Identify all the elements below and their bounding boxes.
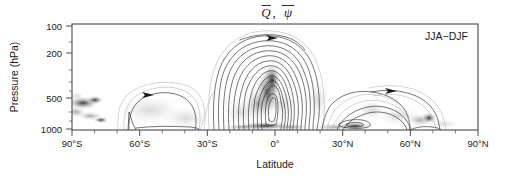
season-difference-annotation: JJA−DJF: [425, 30, 468, 42]
x-tick-label-30s: 30°S: [197, 138, 218, 149]
x-tick-label-30n: 30°N: [332, 138, 353, 149]
shading-blob: [93, 117, 109, 124]
shading-blob: [269, 88, 297, 120]
shading-blob: [69, 91, 85, 101]
plot-title: Q , ψ: [261, 5, 294, 20]
y-tick-label-100: 100: [46, 21, 62, 32]
shading-blob: [221, 124, 265, 131]
contour-plot: 100 200 500 1000 Pressure (hPa): [0, 0, 509, 176]
shading-blob: [86, 96, 104, 105]
figure-container: 100 200 500 1000 Pressure (hPa): [0, 0, 509, 176]
title-symbol-psi: ψ: [284, 5, 293, 20]
x-tick-label-90n: 90°N: [467, 138, 488, 149]
title-symbol-q: Q: [261, 5, 271, 20]
title-comma: ,: [272, 5, 275, 20]
x-axis-label: Latitude: [256, 158, 294, 170]
x-tick-label-60s: 60°S: [129, 138, 150, 149]
x-tick-label-60n: 60°N: [400, 138, 421, 149]
y-tick-label-1000: 1000: [41, 124, 62, 135]
y-tick-label-200: 200: [46, 48, 62, 59]
shading-blob: [272, 124, 312, 131]
y-tick-label-500: 500: [46, 93, 62, 104]
y-axis-ticks: [66, 26, 72, 129]
x-axis-ticks: [72, 130, 478, 136]
x-tick-label-90s: 90°S: [62, 138, 83, 149]
x-tick-label-0: 0°: [270, 138, 279, 149]
y-axis-label: Pressure (hPa): [8, 42, 20, 113]
